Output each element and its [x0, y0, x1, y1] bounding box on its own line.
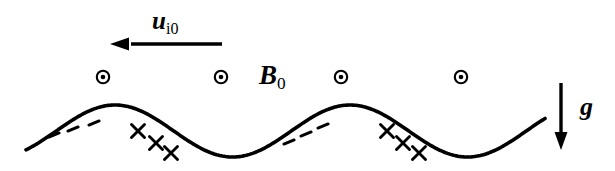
drift-arrow-head: [110, 38, 129, 51]
drift-velocity-arrow: [110, 38, 222, 51]
field-marker-1: [97, 71, 109, 83]
dash-icon-2: [68, 127, 78, 131]
physics-diagram: ui0 B0 g: [0, 0, 615, 171]
gravity-arrow-head: [555, 132, 568, 150]
circle-dot-icon-center: [219, 75, 224, 80]
drift-velocity-label: ui0: [152, 8, 179, 33]
magnetic-field-symbol: B: [259, 60, 277, 90]
circle-dot-icon-center: [339, 75, 344, 80]
positive-charge-marker-group: [132, 125, 426, 160]
field-marker-4: [455, 71, 467, 83]
dash-icon-4: [284, 140, 294, 144]
cross-icon-5: [397, 137, 410, 150]
magnetic-field-label: B0: [259, 62, 286, 89]
dash-icon-5: [301, 132, 311, 136]
field-marker-2: [215, 71, 227, 83]
interface-path: [26, 105, 545, 157]
field-marker-3: [335, 71, 347, 83]
cross-icon-3: [165, 147, 178, 160]
diagram-canvas: [0, 0, 615, 171]
circle-dot-icon-center: [101, 75, 106, 80]
dash-icon-3: [89, 121, 99, 125]
perturbed-interface-curve: [26, 105, 545, 157]
cross-icon-6: [413, 147, 426, 160]
dash-icon-6: [318, 124, 328, 128]
cross-icon-2: [150, 137, 163, 150]
gravity-label: g: [580, 94, 593, 120]
gravity-arrow: [555, 83, 568, 150]
drift-velocity-symbol: u: [152, 7, 166, 34]
magnetic-field-subscript: 0: [277, 74, 286, 93]
gravity-symbol: g: [580, 92, 593, 121]
circle-dot-icon-center: [459, 75, 464, 80]
cross-icon-4: [381, 125, 394, 138]
drift-velocity-subscript: i0: [166, 20, 179, 37]
cross-icon-1: [132, 125, 145, 138]
